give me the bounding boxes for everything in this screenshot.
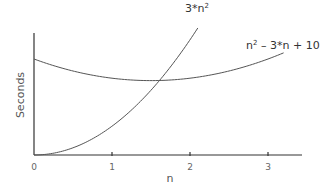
series-quadratic-line	[34, 53, 284, 81]
series-3n2-line	[34, 28, 198, 155]
x-axis-label: n	[167, 172, 174, 185]
y-axis-label: Seconds	[14, 72, 27, 118]
x-tick-label: 1	[109, 162, 115, 172]
x-tick-label: 3	[265, 162, 271, 172]
x-tick-label: 2	[187, 162, 193, 172]
x-tick-label: 0	[31, 162, 37, 172]
series-3n2-label: 3*n2	[185, 2, 209, 15]
chart: 0123 n Seconds 3*n2 n2 – 3*n + 10	[0, 0, 326, 192]
series-quadratic-label: n2 – 3*n + 10	[246, 39, 320, 52]
